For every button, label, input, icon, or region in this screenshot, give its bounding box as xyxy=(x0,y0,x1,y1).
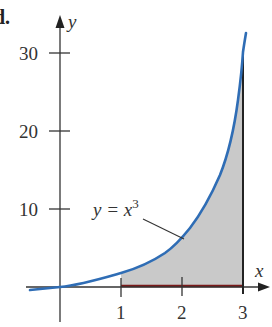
annotation-leader-line xyxy=(143,219,184,239)
x-tick-label-1: 1 xyxy=(116,302,126,323)
x-tick-label-2: 2 xyxy=(177,302,187,323)
curve-annotation: y = x3 xyxy=(91,196,139,220)
panel-label: d. xyxy=(0,6,10,28)
y-axis-arrow-icon xyxy=(56,15,65,28)
y-axis-label: y xyxy=(66,11,77,32)
x-tick-label-3: 3 xyxy=(238,302,248,323)
y-tick-label-30: 30 xyxy=(19,43,38,64)
chart: d. 30 20 10 1 2 3 y x y = x3 xyxy=(0,0,272,327)
shaded-area xyxy=(121,52,243,287)
y-tick-label-20: 20 xyxy=(19,121,38,142)
y-tick-label-10: 10 xyxy=(19,199,38,220)
x-axis-label: x xyxy=(254,260,264,281)
x-axis-arrow-icon xyxy=(258,283,270,292)
